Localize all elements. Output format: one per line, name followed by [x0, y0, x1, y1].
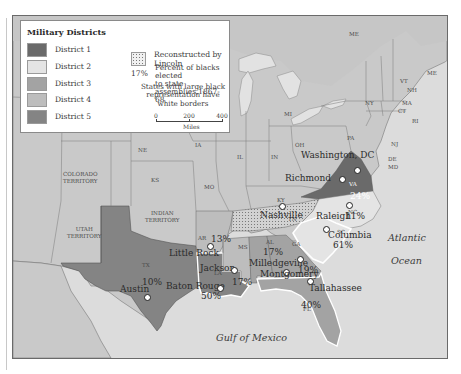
state-label-md: MD	[388, 164, 398, 170]
state-label-oh: OH	[295, 142, 304, 148]
capital-marker-milledgeville	[297, 256, 304, 263]
percent-label-fl: 40%	[301, 300, 321, 310]
state-label-ct: CT	[398, 108, 406, 114]
state-label-me: ME	[349, 31, 359, 37]
legend-item-district-3: District 3	[27, 77, 91, 90]
state-label-me-main: ME	[427, 70, 437, 76]
state-label-in: IN	[271, 154, 278, 160]
state-label-ne: NE	[138, 147, 147, 153]
legend-white-border-note: States with large black representation h…	[137, 83, 229, 108]
capital-marker-nashville	[279, 203, 286, 210]
state-label-mo: MO	[204, 184, 214, 190]
state-label-vt: VT	[400, 78, 408, 84]
city-label-austin: Austin	[120, 284, 149, 294]
state-label-nj: NJ	[391, 141, 398, 147]
state-label-ar: AR	[198, 235, 206, 241]
legend-item-district-5: District 5	[27, 110, 91, 123]
legend-item-district-2: District 2	[27, 60, 91, 73]
district-3-swatch	[27, 77, 47, 91]
capital-marker-raleigh	[346, 202, 353, 209]
city-label-richmond: Richmond	[285, 173, 331, 183]
city-label-columbia: Columbia	[328, 230, 372, 240]
water-label-atlantic: Atlantic	[388, 232, 426, 243]
percent-label-sc: 61%	[333, 240, 353, 250]
district-5-swatch	[27, 110, 47, 124]
state-label-il: IL	[237, 154, 243, 160]
state-label-de: DE	[388, 156, 397, 162]
percent-label-ar: 13%	[211, 234, 231, 244]
state-label-pa: PA	[347, 135, 354, 141]
water-label-gulf-of-mexico: Gulf of Mexico	[216, 332, 287, 343]
legend-item-district-4: District 4	[27, 93, 91, 106]
capital-marker-austin	[144, 294, 151, 301]
water-label-ocean: Ocean	[391, 255, 422, 266]
district-1-swatch	[27, 43, 47, 57]
state-label-va: VA	[349, 181, 357, 187]
state-label-tx: TX	[142, 262, 150, 268]
city-label-baton-rouge: Baton Rouge	[166, 281, 225, 291]
capital-marker-columbia	[323, 226, 330, 233]
legend-percent-sample: 17%	[131, 69, 148, 78]
percent-label-al: 17%	[263, 247, 283, 257]
capital-marker-tallahassee	[307, 278, 314, 285]
city-label-washington: Washington, DC	[301, 150, 374, 160]
state-label-ms: MS	[238, 244, 248, 250]
percent-label-nc: 11%	[345, 211, 365, 221]
territory-label-colorado: COLORADO TERRITORY	[63, 171, 98, 185]
district-2-swatch	[27, 60, 47, 74]
city-label-nashville: Nashville	[260, 210, 303, 220]
state-label-mi: MI	[284, 111, 292, 117]
capital-marker-little-rock	[207, 243, 214, 250]
territory-label-utah: UTAH TERRITORY	[67, 226, 102, 240]
percent-label-ms: 17%	[232, 277, 252, 287]
city-label-tallahassee: Tallahassee	[309, 283, 362, 293]
state-label-nh: NH	[407, 87, 417, 93]
district-4-swatch	[27, 93, 47, 107]
state-label-ny: NY	[365, 100, 374, 106]
scale-bar: 0 200 400 Miles	[153, 112, 223, 132]
map-legend: Military Districts District 1 District 2…	[20, 20, 230, 133]
legend-item-district-1: District 1	[27, 43, 91, 56]
capital-marker-jackson	[231, 267, 238, 274]
state-label-ga: GA	[292, 241, 301, 247]
state-label-ri: RI	[412, 118, 418, 124]
legend-title: Military Districts	[27, 27, 106, 37]
percent-label-va: 24%	[350, 191, 370, 201]
state-label-al: AL	[266, 239, 274, 245]
capital-marker-richmond	[339, 176, 346, 183]
page-margin-line	[6, 18, 7, 370]
city-label-jackson: Jackson	[200, 263, 235, 273]
dotted-pattern-swatch	[131, 52, 146, 66]
state-label-ks: KS	[151, 177, 159, 183]
state-label-ia: IA	[195, 142, 201, 148]
capital-marker-washington	[354, 167, 361, 174]
territory-label-indian: INDIAN TERRITORY	[145, 210, 180, 224]
percent-label-la: 50%	[201, 291, 221, 301]
state-label-ma: MA	[402, 100, 412, 106]
